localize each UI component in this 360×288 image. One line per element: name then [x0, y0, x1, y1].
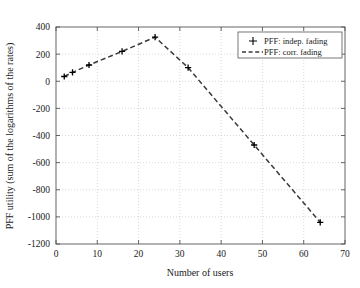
- y-tick-label: -400: [33, 131, 51, 141]
- x-tick-label: 30: [175, 249, 185, 259]
- y-axis-title: PFF utility (sum of the logarithms of th…: [4, 43, 16, 230]
- x-tick-label: 10: [93, 249, 103, 259]
- y-tick-label: 400: [36, 22, 51, 32]
- x-tick-label: 70: [340, 249, 350, 259]
- x-tick-label: 50: [258, 249, 268, 259]
- y-tick-label: -800: [33, 185, 51, 195]
- x-tick-label: 60: [299, 249, 309, 259]
- y-tick-label: -1200: [28, 239, 50, 249]
- chart-canvas: 010203040506070 4002000-200-400-600-800-…: [0, 0, 360, 288]
- y-tick-label: -200: [33, 104, 51, 114]
- y-tick-label: -600: [33, 158, 51, 168]
- legend: PFF: indep. fading PFF: corr. fading: [238, 32, 342, 58]
- x-tick-label: 0: [54, 249, 59, 259]
- x-axis-title: Number of users: [167, 267, 234, 278]
- chart-figure: 010203040506070 4002000-200-400-600-800-…: [0, 0, 360, 288]
- legend-label-corr-fading: PFF: corr. fading: [264, 47, 323, 57]
- y-tick-label: 0: [45, 77, 50, 87]
- y-tick-label: 200: [36, 50, 51, 60]
- legend-label-indep-fading: PFF: indep. fading: [264, 36, 328, 46]
- x-tick-label: 20: [134, 249, 144, 259]
- x-tick-label: 40: [216, 249, 226, 259]
- y-tick-label: -1000: [28, 212, 50, 222]
